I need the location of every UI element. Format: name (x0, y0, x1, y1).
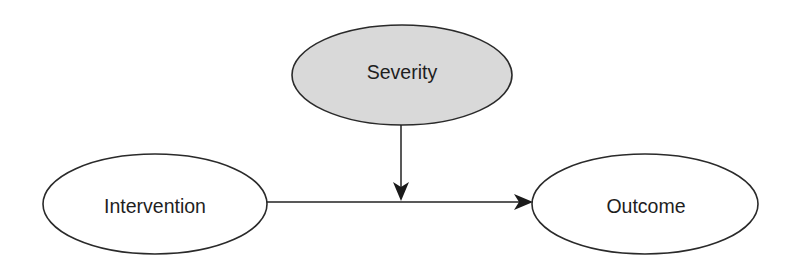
node-severity: Severity (292, 25, 512, 125)
edge-severity-moderation (393, 125, 409, 201)
outcome-label: Outcome (606, 195, 685, 217)
severity-label: Severity (367, 61, 438, 83)
node-intervention: Intervention (43, 154, 267, 254)
node-outcome: Outcome (532, 154, 758, 254)
moderation-diagram: Severity Intervention Outcome (0, 0, 801, 278)
intervention-label: Intervention (104, 195, 206, 217)
